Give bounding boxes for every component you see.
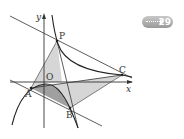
y-axis-label: y xyxy=(35,12,42,22)
x-axis-label: x xyxy=(126,84,131,94)
point-label-B: B xyxy=(66,110,73,120)
reference-badge: 29 xyxy=(142,16,173,28)
dotted-line-icon xyxy=(146,21,160,22)
point-label-C: C xyxy=(119,65,126,75)
point-label-A: A xyxy=(24,89,32,99)
point-P xyxy=(56,40,59,43)
point-label-P: P xyxy=(59,31,65,41)
y-axis-arrow-icon xyxy=(42,13,46,19)
line-P-C xyxy=(10,16,132,78)
origin-label: O xyxy=(46,72,53,82)
point-B xyxy=(69,107,72,110)
arrow-right-icon xyxy=(160,19,164,25)
